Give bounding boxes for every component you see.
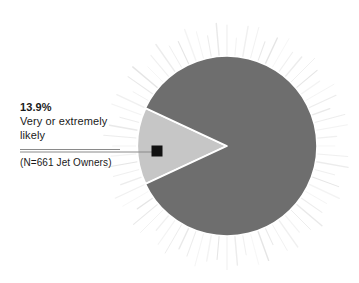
callout-description-line1: Very or extremely — [20, 114, 142, 128]
halo-spike — [257, 42, 265, 64]
halo-spike — [141, 208, 165, 232]
halo-spike — [314, 161, 348, 167]
callout-percent: 13.9% — [20, 100, 142, 114]
callout-base-label: (N=661 Jet Owners) — [20, 156, 142, 169]
halo-spike — [208, 36, 212, 60]
halo-spike — [158, 218, 176, 244]
halo-spike — [289, 208, 310, 229]
halo-spike — [250, 231, 259, 264]
halo-spike — [284, 57, 302, 79]
halo-spike — [133, 67, 160, 90]
halo-spike — [115, 183, 147, 198]
halo-spike — [207, 233, 212, 261]
halo-spike — [235, 38, 237, 58]
halo-spike — [277, 218, 297, 247]
halo-spike — [242, 233, 246, 255]
halo-spike — [156, 213, 170, 230]
callout-divider — [20, 149, 120, 150]
chart-canvas: 13.9% Very or extremely likely (N=661 Je… — [0, 0, 359, 283]
halo-spike — [315, 136, 337, 138]
halo-spike — [271, 222, 287, 250]
halo-spike — [294, 203, 322, 226]
halo-spike — [312, 114, 345, 123]
pie-slices — [137, 56, 317, 236]
halo-spike — [217, 234, 219, 260]
halo-spike — [178, 41, 190, 66]
halo-spike — [257, 229, 269, 261]
halo-spike — [310, 176, 339, 187]
halo-spike — [310, 109, 330, 116]
halo-spike — [315, 154, 348, 157]
halo-spike — [235, 234, 238, 265]
callout-description-line2: likely — [20, 128, 142, 142]
halo-spike — [195, 231, 204, 266]
halo-spike — [187, 229, 197, 256]
halo-spike — [314, 125, 348, 131]
halo-spike — [294, 70, 317, 89]
halo-spike — [165, 222, 183, 253]
halo-spike — [151, 55, 171, 78]
halo-spike — [242, 26, 248, 59]
halo-spike — [179, 226, 190, 249]
halo-spike — [289, 58, 314, 83]
halo-spike — [113, 169, 142, 177]
halo-spike — [271, 39, 289, 70]
halo-spike — [312, 169, 335, 175]
halo-spike — [216, 23, 219, 58]
halo-spike — [121, 176, 144, 185]
halo-spike — [156, 45, 177, 74]
halo-spike — [250, 27, 259, 61]
slice-marker-square — [152, 146, 163, 157]
halo-spike — [303, 84, 334, 102]
halo-spike — [196, 32, 204, 61]
halo-spike — [264, 226, 273, 245]
halo-spike — [137, 196, 155, 208]
halo-spike — [134, 203, 160, 225]
callout-block: 13.9% Very or extremely likely (N=661 Je… — [20, 100, 142, 169]
halo-spike — [128, 77, 155, 96]
